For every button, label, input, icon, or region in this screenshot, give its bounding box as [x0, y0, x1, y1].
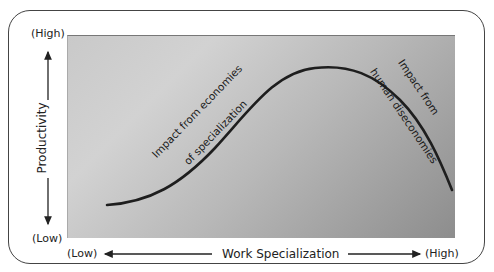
- productivity-curve: [107, 67, 452, 205]
